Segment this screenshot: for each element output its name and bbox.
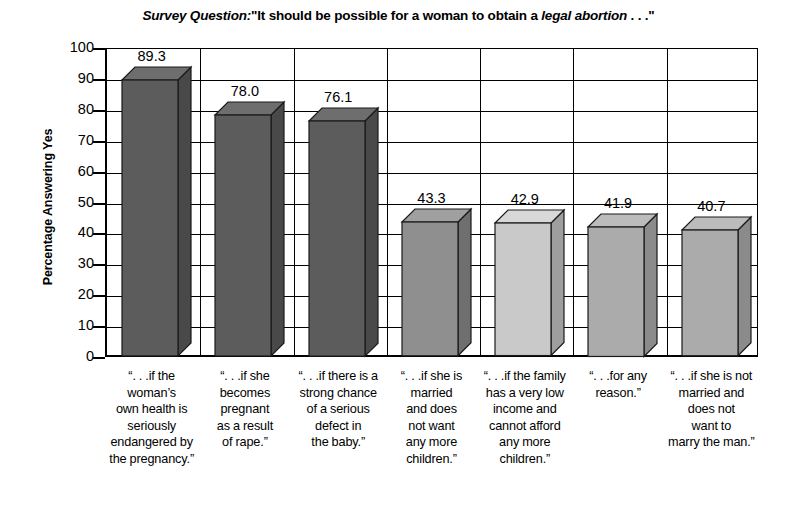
y-axis-tick-label: 90: [14, 71, 94, 86]
chart-title-tail: . . .": [627, 8, 655, 23]
category-label-line: the pregnancy.”: [100, 451, 203, 468]
y-axis-tick-mark: [93, 110, 105, 112]
bar-front-face: [122, 80, 178, 356]
category-label: “. . .if there is astrong chanceof a ser…: [287, 368, 390, 451]
bar: [309, 107, 378, 355]
bar: [215, 101, 284, 355]
bar-side-face: [458, 209, 471, 356]
category-label-line: not want: [380, 418, 483, 435]
bar-value-label: 43.3: [385, 191, 478, 206]
bar: [402, 208, 471, 355]
bar-front-face: [588, 227, 644, 356]
bar: [588, 213, 657, 355]
bar-side-face: [178, 67, 191, 356]
bar-top-face: [495, 210, 564, 223]
bar-side-face: [551, 210, 564, 356]
y-axis-tick-mark: [93, 79, 105, 81]
bar-top-face: [682, 217, 751, 230]
category-label: “. . .if the familyhas a very lowincome …: [473, 368, 576, 468]
category-label-line: of a serious: [287, 401, 390, 418]
bar-front-face: [215, 115, 271, 356]
category-label-line: defect in: [287, 418, 390, 435]
chart-title-mid: "It should be possible for a woman to ob…: [251, 8, 541, 23]
y-axis-tick-label: 0: [14, 349, 94, 364]
category-label-line: becomes: [193, 385, 296, 402]
category-label-line: “. . .if the family: [473, 368, 576, 385]
category-label-line: married and: [660, 385, 763, 402]
bar-front-face: [495, 223, 551, 356]
y-axis-tick-mark: [93, 295, 105, 297]
y-axis-tick-label: 60: [14, 164, 94, 179]
category-label-line: children.”: [380, 451, 483, 468]
y-axis-tick-label: 100: [14, 40, 94, 55]
category-label-line: reason.”: [566, 385, 669, 402]
bar-top-face: [402, 209, 471, 222]
category-label-line: any more: [380, 434, 483, 451]
category-label-line: strong chance: [287, 385, 390, 402]
y-axis-tick-mark: [93, 326, 105, 328]
bar-top-face: [215, 102, 284, 115]
category-label-line: cannot afford: [473, 418, 576, 435]
category-label-line: “. . .if the: [100, 368, 203, 385]
bar-chart: Survey Question:"It should be possible f…: [0, 0, 797, 510]
bar-value-label: 76.1: [292, 90, 385, 105]
category-label-line: income and: [473, 401, 576, 418]
category-label-line: of rape.”: [193, 434, 296, 451]
category-label-line: any more: [473, 434, 576, 451]
category-label-line: “. . .if there is a: [287, 368, 390, 385]
category-label: “. . .if shebecomespregnantas a resultof…: [193, 368, 296, 451]
bar-side-face: [738, 217, 751, 356]
bar-side-face: [365, 108, 378, 356]
y-axis-tick-mark: [93, 172, 105, 174]
category-label-line: married: [380, 385, 483, 402]
bar-value-label: 42.9: [478, 192, 571, 207]
y-axis-tick-label: 20: [14, 287, 94, 302]
y-axis-tick-label: 10: [14, 318, 94, 333]
chart-title-emphasis: legal abortion: [541, 8, 627, 23]
y-axis-tick-label: 80: [14, 102, 94, 117]
category-label-line: marry the man.”: [660, 434, 763, 451]
category-label-line: does not: [660, 401, 763, 418]
y-axis-tick-label: 70: [14, 133, 94, 148]
category-label-line: “. . .if she is not: [660, 368, 763, 385]
category-label-line: own health is: [100, 401, 203, 418]
y-axis-tick-label: 40: [14, 225, 94, 240]
category-label-line: “. . .for any: [566, 368, 669, 385]
bar-top-face: [309, 108, 378, 121]
gridline-horizontal: [107, 111, 757, 112]
chart-title: Survey Question:"It should be possible f…: [0, 8, 797, 23]
chart-title-lead: Survey Question:: [142, 8, 251, 23]
category-label: “. . .for anyreason.”: [566, 368, 669, 401]
bar-value-label: 78.0: [198, 84, 291, 99]
y-axis-tick-mark: [93, 264, 105, 266]
category-label-line: and does: [380, 401, 483, 418]
gridline-horizontal: [107, 173, 757, 174]
category-label-line: children.”: [473, 451, 576, 468]
bar-top-face: [122, 67, 191, 80]
category-label-line: woman’s: [100, 385, 203, 402]
y-axis-tick-mark: [93, 48, 105, 50]
bar-front-face: [309, 121, 365, 356]
y-axis-tick-mark: [93, 233, 105, 235]
category-label-line: “. . .if she: [193, 368, 296, 385]
category-label-line: seriously: [100, 418, 203, 435]
gridline-horizontal: [107, 142, 757, 143]
bar-value-label: 89.3: [105, 49, 198, 64]
category-label: “. . .if she is notmarried anddoes notwa…: [660, 368, 763, 451]
category-label-line: as a result: [193, 418, 296, 435]
bar-front-face: [402, 222, 458, 356]
category-label-line: has a very low: [473, 385, 576, 402]
bar-side-face: [644, 214, 657, 356]
y-axis-tick-mark: [93, 203, 105, 205]
y-axis-tick-mark: [93, 357, 105, 359]
gridline-horizontal: [107, 80, 757, 81]
y-axis-tick-label: 50: [14, 195, 94, 210]
category-label-line: endangered by: [100, 434, 203, 451]
category-label-line: want to: [660, 418, 763, 435]
y-axis-tick-mark: [93, 141, 105, 143]
category-label: “. . .if she ismarriedand doesnot wantan…: [380, 368, 483, 468]
bar: [495, 209, 564, 355]
bar-front-face: [682, 230, 738, 356]
bar: [682, 216, 751, 355]
category-label-line: the baby.”: [287, 434, 390, 451]
